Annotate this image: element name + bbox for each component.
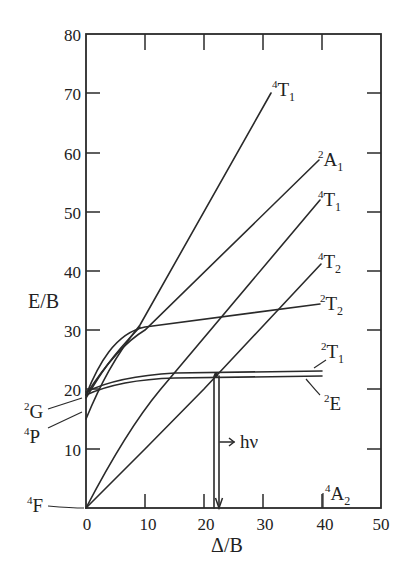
leader-2T1 (314, 360, 326, 368)
y-tick-60: 60 (64, 145, 81, 164)
label-2A1: 2A1 (318, 148, 343, 174)
label-2E: 2E (324, 392, 341, 414)
x-tick-0: 0 (83, 515, 92, 534)
label-2G: 2G (24, 400, 44, 422)
x-axis-title: Δ/B (211, 534, 243, 556)
label-2T2: 2T2 (320, 292, 343, 318)
label-4P: 4P (24, 425, 40, 447)
y-tick-labels: 80 70 60 50 40 30 20 10 (64, 26, 81, 460)
curve-4T1-lower (86, 200, 320, 508)
label-4T1-upper: 4T1 (272, 78, 295, 104)
curve-2E (86, 376, 322, 395)
label-4T1-lower: 4T1 (318, 188, 341, 214)
x-tick-40: 40 (317, 515, 334, 534)
curve-4T1-upper (86, 93, 271, 419)
leader-4F (48, 506, 84, 508)
energy-curves (86, 93, 322, 508)
tanabe-sugano-diagram: 80 70 60 50 40 30 20 10 0 10 20 30 40 50… (0, 0, 407, 581)
x-tick-30: 30 (257, 515, 274, 534)
y-tick-10: 10 (64, 441, 81, 460)
y-tick-20: 20 (64, 381, 81, 400)
label-4A2: 4A2 (325, 482, 350, 508)
label-4F: 4F (27, 494, 43, 516)
y-tick-80: 80 (64, 26, 81, 45)
x-tick-labels: 0 10 20 30 40 50 (83, 515, 390, 534)
label-4T2: 4T2 (318, 250, 341, 276)
y-tick-30: 30 (64, 322, 81, 341)
hv-transition: hν (214, 373, 259, 508)
term-labels-right: 4T1 2A1 4T1 4T2 2T2 2T1 2E 4A2 (272, 78, 350, 508)
x-tick-10: 10 (140, 515, 157, 534)
y-tick-40: 40 (64, 263, 81, 282)
leader-2E (306, 379, 320, 395)
x-tick-50: 50 (373, 515, 390, 534)
x-axis-ticks (145, 34, 322, 508)
hv-label: hν (240, 431, 259, 452)
x-tick-20: 20 (198, 515, 215, 534)
y-tick-70: 70 (64, 85, 81, 104)
y-axis-title: E/B (28, 290, 59, 312)
y-tick-50: 50 (64, 204, 81, 223)
leader-4P (48, 412, 82, 428)
curve-4T2 (86, 264, 321, 508)
label-2T1: 2T1 (321, 340, 344, 366)
curve-2A1 (86, 160, 319, 395)
